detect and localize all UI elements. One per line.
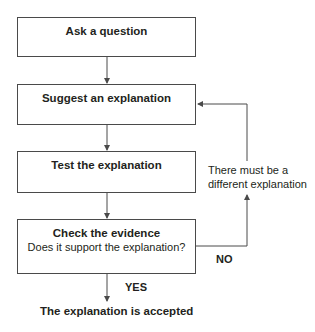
step-ask-question: Ask a question: [17, 17, 196, 57]
no-label: NO: [216, 253, 233, 265]
arrow-loop-back: [198, 104, 247, 161]
arrow-no: [196, 195, 247, 246]
yes-label: YES: [125, 281, 147, 293]
step-title: Ask a question: [18, 25, 195, 37]
outcome-label: The explanation is accepted: [40, 305, 193, 317]
loop-note-line1: There must be a: [208, 163, 307, 177]
step-title: Suggest an explanation: [18, 92, 195, 104]
step-check-evidence: Check the evidence Does it support the e…: [17, 219, 196, 274]
step-test-explanation: Test the explanation: [17, 151, 196, 193]
step-title: Check the evidence: [18, 227, 195, 239]
step-subtitle: Does it support the explanation?: [18, 241, 195, 253]
loop-note-line2: different explanation: [208, 177, 307, 191]
step-suggest-explanation: Suggest an explanation: [17, 84, 196, 125]
step-title: Test the explanation: [18, 159, 195, 171]
loop-note: There must be a different explanation: [208, 163, 307, 191]
